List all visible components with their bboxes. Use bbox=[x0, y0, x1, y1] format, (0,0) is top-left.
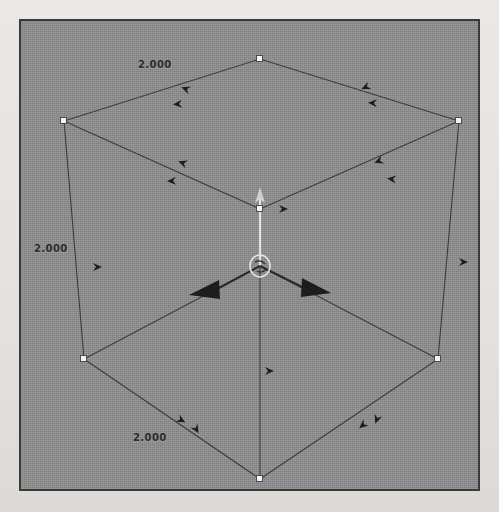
vertex-handle-bottom-right[interactable] bbox=[434, 355, 441, 362]
vertex-handle-top-left[interactable] bbox=[60, 117, 67, 124]
gizmo-axis-y bbox=[260, 266, 302, 287]
edge-topleft-vertical bbox=[64, 121, 84, 359]
marker-inner-right[interactable] bbox=[373, 156, 384, 167]
page-background: 2.000 2.000 2.000 bbox=[0, 0, 499, 512]
edge-topright-to-center bbox=[260, 121, 459, 209]
vertex-handle-bottom-left[interactable] bbox=[80, 355, 87, 362]
vertex-handle-top-right[interactable] bbox=[455, 117, 462, 124]
edge-topright-vertical bbox=[438, 121, 459, 359]
edge-bottomright-to-bottom bbox=[260, 359, 438, 479]
gizmo-arrow-x bbox=[189, 280, 220, 299]
dimension-label-left[interactable]: 2.000 bbox=[34, 243, 68, 254]
gizmo-arrow-y bbox=[301, 278, 331, 297]
vertex-handle-center[interactable] bbox=[256, 205, 263, 212]
edge-bottomleft-to-bottom bbox=[84, 359, 260, 479]
marker-top-center[interactable] bbox=[279, 205, 288, 213]
edge-markers-layer bbox=[93, 82, 468, 436]
edge-topleft-to-center bbox=[64, 121, 260, 209]
marker-bottom-left-edge-2[interactable] bbox=[191, 424, 202, 436]
vertex-handle-bottom[interactable] bbox=[256, 475, 263, 482]
marker-top-left-edge[interactable] bbox=[180, 84, 191, 95]
marker-inner-left[interactable] bbox=[177, 158, 188, 169]
marker-top-right-edge-2[interactable] bbox=[368, 99, 377, 107]
vertex-handle-top[interactable] bbox=[256, 55, 263, 62]
gizmo-axis-x bbox=[217, 266, 260, 289]
marker-bottom-right-edge-2[interactable] bbox=[372, 414, 383, 425]
marker-top-left-edge-2[interactable] bbox=[173, 100, 183, 109]
dimension-label-bottom[interactable]: 2.000 bbox=[133, 432, 167, 443]
marker-bottom-center[interactable] bbox=[265, 367, 274, 375]
marker-right-vertical[interactable] bbox=[459, 258, 468, 266]
viewport-canvas[interactable]: 2.000 2.000 2.000 bbox=[21, 21, 478, 489]
viewport-frame[interactable]: 2.000 2.000 2.000 bbox=[19, 19, 480, 491]
cube-edges bbox=[64, 59, 459, 479]
marker-inner-right-2[interactable] bbox=[387, 174, 397, 183]
marker-bottom-left-edge[interactable] bbox=[176, 415, 188, 426]
dimension-label-top[interactable]: 2.000 bbox=[138, 59, 172, 70]
wireframe-scene bbox=[21, 21, 480, 491]
edge-top-to-topright bbox=[260, 59, 459, 121]
marker-bottom-right-edge[interactable] bbox=[357, 419, 369, 431]
marker-inner-left-2[interactable] bbox=[167, 177, 176, 185]
marker-left-vertical[interactable] bbox=[93, 263, 102, 271]
